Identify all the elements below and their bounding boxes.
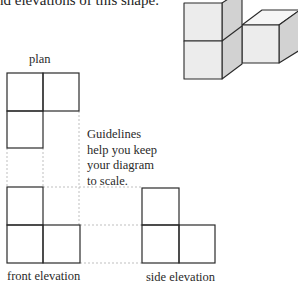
guidelines-note-line: Guidelines — [87, 127, 177, 143]
guidelines-note: Guidelines help you keep your diagram to… — [87, 127, 177, 189]
plan-label: plan — [29, 52, 51, 67]
front-elevation-label: front elevation — [7, 269, 80, 284]
guidelines-note-line: to scale. — [87, 174, 177, 190]
front-elevation-view — [7, 187, 80, 263]
guidelines-note-line: help you keep — [87, 143, 177, 159]
side-elevation-view — [142, 188, 215, 263]
plan-view — [7, 73, 79, 148]
side-elevation-label: side elevation — [146, 270, 215, 285]
guidelines-note-line: your diagram — [87, 158, 177, 174]
